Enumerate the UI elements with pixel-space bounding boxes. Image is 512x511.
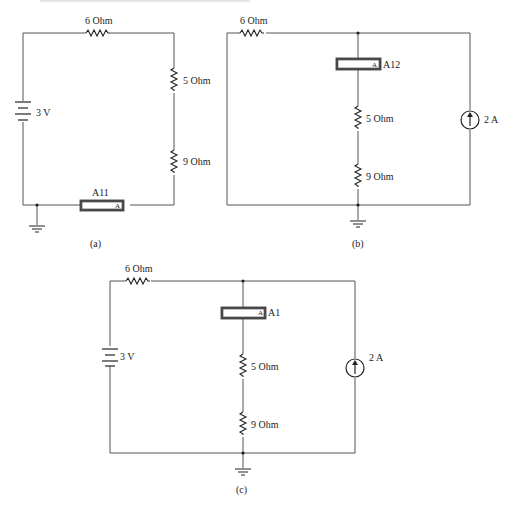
panel-a xyxy=(15,30,177,232)
label-resistor-6ohm: 6 Ohm xyxy=(85,15,113,26)
ammeter-letter: A xyxy=(258,309,263,317)
ground-icon xyxy=(350,221,366,227)
label-resistor-6ohm: 6 Ohm xyxy=(240,15,268,26)
ammeter-letter: A xyxy=(115,202,120,210)
resistor-6ohm-icon xyxy=(240,30,264,36)
caption-a: (a) xyxy=(90,238,101,250)
label-current-source: 2 A xyxy=(484,114,499,125)
label-resistor-5ohm: 5 Ohm xyxy=(251,361,279,372)
resistor-5ohm-icon xyxy=(355,106,361,129)
ground-icon xyxy=(29,226,45,232)
label-resistor-9ohm: 9 Ohm xyxy=(251,419,279,430)
node-dot xyxy=(356,203,359,206)
ammeter-letter: A xyxy=(372,61,377,69)
label-resistor-6ohm: 6 Ohm xyxy=(125,263,153,274)
caption-b: (b) xyxy=(352,238,364,250)
label-resistor-9ohm: 9 Ohm xyxy=(366,171,394,182)
resistor-5ohm-icon xyxy=(240,354,246,377)
label-battery: 3 V xyxy=(36,107,51,118)
label-resistor-9ohm: 9 Ohm xyxy=(183,156,211,167)
label-ammeter: A12 xyxy=(383,59,400,70)
resistor-6ohm-icon xyxy=(126,278,150,284)
node-dot xyxy=(356,31,359,34)
node-dot xyxy=(35,203,38,206)
label-battery: 3 V xyxy=(120,351,135,362)
label-ammeter: A1 xyxy=(268,307,280,318)
label-resistor-5ohm: 5 Ohm xyxy=(183,75,211,86)
circuit-diagrams: 6 Ohm 5 Ohm 9 Ohm 3 V A11 A (a) 6 Ohm A1… xyxy=(0,0,512,511)
current-source-icon xyxy=(461,111,479,129)
resistor-9ohm-icon xyxy=(240,412,246,435)
battery-icon xyxy=(15,102,31,120)
panel-c xyxy=(102,278,364,475)
current-source-icon xyxy=(346,359,364,377)
resistor-9ohm-icon xyxy=(355,164,361,187)
label-current-source: 2 A xyxy=(369,352,384,363)
ground-icon xyxy=(235,469,251,475)
label-resistor-5ohm: 5 Ohm xyxy=(366,113,394,124)
battery-icon xyxy=(102,349,118,366)
label-ammeter: A11 xyxy=(92,187,109,198)
node-dot xyxy=(241,279,244,282)
panel-b xyxy=(227,30,479,227)
caption-c: (c) xyxy=(236,484,247,496)
resistor-5ohm-icon xyxy=(171,68,177,91)
resistor-6ohm-icon xyxy=(86,30,110,36)
resistor-9ohm-icon xyxy=(171,150,177,173)
node-dot xyxy=(241,451,244,454)
